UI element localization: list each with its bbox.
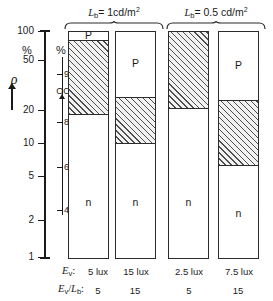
ev-colon: :: [72, 265, 75, 276]
bar-2-segment-p: P: [116, 32, 155, 97]
primary-tick-label: 1: [8, 251, 34, 262]
caption-row-2-symbol: Ev/Lb:: [58, 283, 84, 296]
bar-2-segment-hatched: [116, 97, 155, 144]
bar-3-label-n: n: [169, 196, 208, 208]
bar-1-segment-n: n: [69, 115, 108, 258]
primary-tick-label: 2: [8, 214, 34, 225]
primary-axis-line: [44, 31, 46, 259]
bar-3-segment-hatched: [169, 32, 208, 109]
primary-tick-label: 100: [8, 25, 34, 36]
group-2-superscript: 2: [244, 6, 248, 13]
primary-tick-mark: [38, 176, 45, 177]
primary-tick-mark: [38, 257, 45, 258]
bar-1-segment-hatched: [69, 40, 108, 115]
caption-row-1-symbol: Ev:: [62, 265, 75, 278]
caption-illuminance-3: 2.5 lux: [169, 266, 209, 277]
primary-tick-label: 20: [8, 104, 34, 115]
secondary-tick-mark: [57, 210, 63, 211]
group-1-superscript: 2: [136, 6, 140, 13]
primary-tick-label: 50: [8, 54, 34, 65]
primary-tick-mark: [38, 220, 45, 221]
bar-1-label-n: n: [69, 196, 108, 208]
bar-2-label-n: n: [116, 196, 155, 208]
secondary-tick-mark: [57, 167, 63, 168]
ratio-colon: :: [81, 283, 84, 294]
bar-2-label-p: P: [116, 57, 155, 69]
caption-ratio-4: 15: [226, 285, 250, 296]
bar-3-segment-n: n: [169, 109, 208, 258]
group-label-2: Lb= 0.5 cd/m2: [162, 6, 270, 20]
primary-tick-mark: [38, 60, 45, 61]
caption-ratio-2: 15: [122, 285, 148, 296]
bar-4-label-n: n: [219, 207, 258, 219]
secondary-tick-mark: [57, 122, 63, 123]
caption-illuminance-4: 7.5 lux: [219, 266, 259, 277]
bar-4-segment-p: P: [219, 32, 258, 100]
secondary-axis-line: [62, 57, 63, 215]
caption-ratio-3: 5: [178, 285, 200, 296]
bar-3: n: [168, 31, 209, 259]
secondary-tick-mark: [57, 74, 63, 75]
primary-tick-label: 5: [8, 170, 34, 181]
primary-tick-mark: [38, 143, 45, 144]
group-brace-2: [166, 21, 266, 30]
group-label-1: Lb= 1cd/m2: [62, 6, 166, 20]
caption-illuminance-1: 5 lux: [82, 266, 114, 277]
primary-tick-mark: [38, 110, 45, 111]
bar-4: P n: [218, 31, 259, 259]
bar-4-label-p: P: [219, 59, 258, 71]
primary-tick-mark: [38, 31, 45, 32]
bar-2: P n: [115, 31, 156, 259]
primary-tick-label: 10: [8, 137, 34, 148]
oc-arrow-icon: [62, 98, 63, 112]
bar-4-segment-n: n: [219, 166, 258, 258]
group-2-equation: = 0.5 cd/m: [194, 6, 243, 18]
bar-4-segment-hatched: [219, 100, 258, 166]
bar-2-segment-n: n: [116, 144, 155, 258]
bar-1-segment-p: P: [69, 32, 108, 40]
caption-illuminance-2: 15 lux: [118, 266, 154, 277]
chart-canvas: ρ % 100 50 20 10 5 2 1 % 99 80 60 40 OC …: [0, 0, 273, 301]
group-1-equation: = 1cd/m: [98, 6, 136, 18]
bar-1: P n: [68, 31, 109, 259]
caption-ratio-1: 5: [88, 285, 108, 296]
